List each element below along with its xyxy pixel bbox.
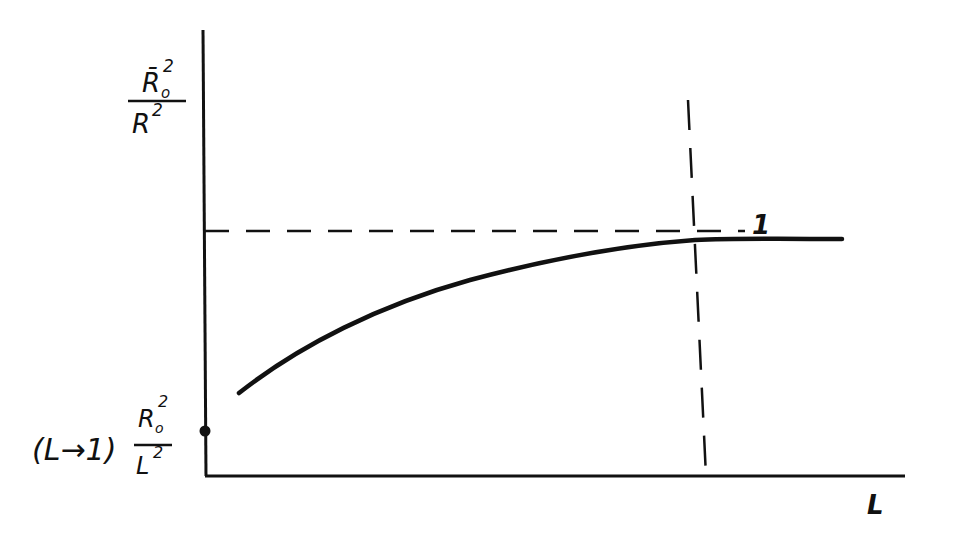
- y-label-denominator-sup: 2: [152, 100, 163, 120]
- intercept-label: (L→1) R o 2 L 2: [32, 392, 172, 480]
- asymptote-label: 1: [752, 210, 770, 240]
- intercept-dot: [200, 426, 211, 437]
- intercept-denominator: L: [136, 452, 149, 480]
- intercept-limit: (L→1): [32, 432, 116, 467]
- diagram-canvas: R̄ o 2 R 2 1 (L→1) R o 2 L 2 L: [0, 0, 954, 534]
- x-axis-label: L: [867, 490, 884, 520]
- intercept-numerator-sub: o: [155, 420, 164, 436]
- y-label-numerator-sup: 2: [163, 56, 174, 76]
- curve: [239, 239, 842, 393]
- intercept-numerator-sup: 2: [158, 392, 168, 411]
- y-label-denominator: R: [132, 109, 150, 139]
- y-label-numerator: R̄: [142, 67, 160, 98]
- intercept-numerator: R: [138, 405, 155, 433]
- intercept-denominator-sup: 2: [153, 443, 163, 462]
- y-axis-label: R̄ o 2 R 2: [128, 56, 186, 139]
- y-axis: [203, 30, 206, 476]
- vertical-dashed-line: [688, 100, 706, 476]
